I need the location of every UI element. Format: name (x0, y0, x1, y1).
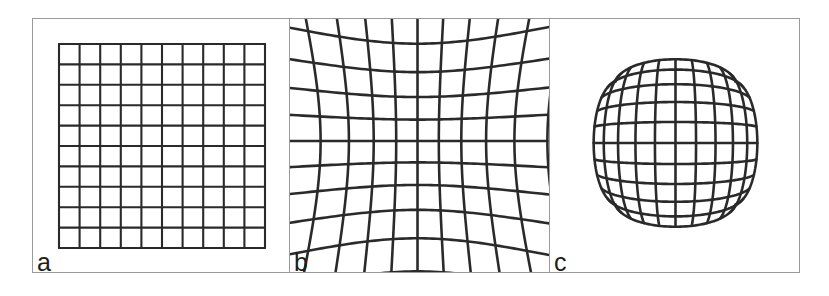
distortion-grid-pincushion-distortion (550, 19, 799, 272)
panel-label-c: c (554, 250, 567, 275)
figure-frame: abc (32, 18, 800, 273)
distortion-grid-barrel-distortion (290, 19, 549, 272)
figure-root: abc (0, 0, 829, 296)
panel-label-a: a (37, 250, 51, 275)
panel-barrel-distortion: b (289, 19, 549, 272)
panel-pincushion-distortion: c (549, 19, 799, 272)
panel-label-b: b (294, 250, 308, 275)
distortion-grid-no-distortion (33, 19, 289, 272)
panel-no-distortion: a (33, 19, 289, 272)
